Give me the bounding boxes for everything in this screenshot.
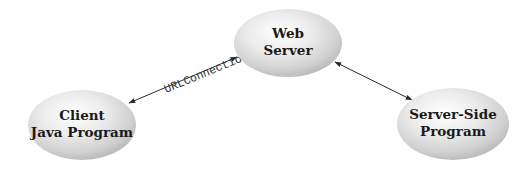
node-label-line2: Java Program <box>30 124 133 140</box>
node-server-side-program: Server-Side Program <box>397 88 509 160</box>
node-client-java-program: Client Java Program <box>28 90 136 160</box>
node-label-line2: Program <box>420 123 486 139</box>
double-arrow-icon <box>335 62 412 100</box>
node-web-server: Web Server <box>234 9 342 77</box>
node-label-line1: Server-Side <box>409 106 497 122</box>
edge-label-urlconnection: URLConnection <box>162 49 250 95</box>
edge-web-server-server-side <box>335 62 412 100</box>
client-server-diagram: URLConnection Web Server Client Java Pro… <box>0 0 529 172</box>
edge-client-web-server: URLConnection <box>129 49 250 103</box>
node-label-line1: Client <box>59 107 105 123</box>
node-label-line2: Server <box>264 42 314 58</box>
node-label-line1: Web <box>271 25 304 41</box>
